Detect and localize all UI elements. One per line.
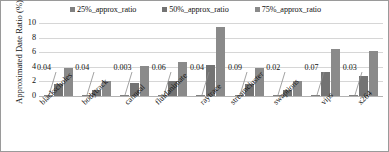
legend-label: 50%_approx_ratio [169,6,228,14]
y-tick-label: 6 [32,48,36,56]
bar [331,49,340,96]
bar-value-label: 0.04 [75,64,89,72]
bar-value-label: 0.04 [37,64,51,72]
x-label-cell: bodytrack [77,97,115,151]
legend-swatch-icon [162,7,167,12]
bar-groups: 0.040.040.0030.060.040.090.020.070.03 [39,23,383,96]
callout-leader-line [316,72,325,95]
x-axis-labels: blackscholesbodytrackcannealfluidanimate… [39,97,383,151]
x-label-cell: vips [307,97,345,151]
y-tick-label: 10 [28,19,36,27]
bar-group: 0.04 [192,23,230,96]
bar [369,51,378,96]
chart-legend: 25%_approx_ratio 50%_approx_ratio 75%_ap… [1,4,389,17]
bar-group: 0.03 [345,23,383,96]
bar-value-label: 0.03 [343,64,357,72]
x-label-cell: blackscholes [39,97,77,151]
y-tick-label: 4 [32,63,36,71]
plot-area: 0246810 0.040.040.0030.060.040.090.020.0… [39,23,383,96]
bar-value-label: 0.06 [152,64,166,72]
callout-leader-line [354,72,363,95]
legend-item-75: 75%_approx_ratio [255,6,321,14]
legend-item-25: 25%_approx_ratio [70,6,136,14]
legend-label: 75%_approx_ratio [262,6,321,14]
x-label-cell: x264 [345,97,383,151]
x-label-cell: swaptions [268,97,306,151]
bar-group: 0.003 [115,23,153,96]
bar-value-label: 0.003 [113,64,131,72]
x-label-cell: streamcluster [230,97,268,151]
y-axis-title: Approximated Date Ratio (%) [12,0,26,112]
bar-value-label: 0.04 [190,64,204,72]
x-label-cell: fluidanimate [154,97,192,151]
legend-item-50: 50%_approx_ratio [162,6,228,14]
legend-swatch-icon [255,7,260,12]
bar [349,95,358,96]
y-tick-label: 0 [32,92,36,100]
bar-value-label: 0.07 [305,64,319,72]
bar [311,95,320,96]
legend-label: 25%_approx_ratio [77,6,136,14]
y-tick-label: 8 [32,33,36,41]
bar-group: 0.07 [307,23,345,96]
y-tick-label: 2 [32,77,36,85]
chart-figure: 25%_approx_ratio 50%_approx_ratio 75%_ap… [0,0,389,152]
bar-value-label: 0.02 [266,64,280,72]
x-label-cell: canneal [115,97,153,151]
bar-value-label: 0.09 [228,64,242,72]
x-label-cell: raytrace [192,97,230,151]
legend-swatch-icon [70,7,75,12]
